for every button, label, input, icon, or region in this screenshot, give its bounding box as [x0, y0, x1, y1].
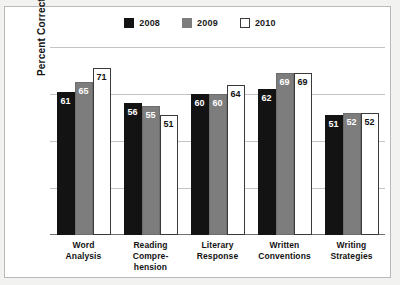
bar-group: 616571: [50, 47, 117, 235]
bar-group: 515252: [318, 47, 385, 235]
legend-label: 2010: [255, 18, 276, 28]
x-axis-category-label: LiteraryResponse: [184, 240, 251, 273]
legend-item: 2008: [124, 18, 160, 28]
bar-group: 626969: [251, 47, 318, 235]
x-axis-labels: WordAnalysisReadingCompre-hensionLiterar…: [50, 240, 385, 273]
x-axis-category-label: WrittenConventions: [251, 240, 318, 273]
x-axis-category-line: Literary: [184, 240, 251, 251]
bar-value-label: 62: [259, 93, 275, 103]
x-axis-category-label: ReadingCompre-hension: [117, 240, 184, 273]
x-axis-category-line: hension: [117, 262, 184, 273]
bar-groups: 616571565551606064626969515252: [50, 47, 385, 235]
chart-figure: 200820092010 Percent Correct 020406080 6…: [0, 0, 400, 285]
y-axis-title: Percent Correct: [36, 0, 47, 97]
x-axis-category-label: WritingStrategies: [318, 240, 385, 273]
bar[interactable]: 65: [75, 82, 93, 235]
bar-set: 606064: [184, 47, 251, 235]
bar-set: 616571: [50, 47, 117, 235]
bar-value-label: 65: [76, 86, 92, 96]
legend-swatch-icon: [124, 18, 134, 28]
bar-set: 565551: [117, 47, 184, 235]
legend-item: 2009: [182, 18, 218, 28]
legend-item: 2010: [240, 18, 276, 28]
bar-value-label: 56: [125, 107, 141, 117]
bar[interactable]: 60: [191, 94, 209, 235]
bar-value-label: 64: [228, 89, 244, 99]
bar-group: 565551: [117, 47, 184, 235]
legend-label: 2008: [139, 18, 160, 28]
chart-legend: 200820092010: [0, 18, 400, 28]
bar[interactable]: 51: [325, 115, 343, 235]
bar-value-label: 51: [326, 119, 342, 129]
bar-value-label: 69: [277, 77, 293, 87]
bar-value-label: 55: [143, 110, 159, 120]
x-axis-category-line: Response: [184, 251, 251, 262]
bar[interactable]: 69: [276, 73, 294, 235]
bar-value-label: 52: [362, 117, 378, 127]
legend-swatch-icon: [182, 18, 192, 28]
bar[interactable]: 61: [57, 92, 75, 235]
bar-group: 606064: [184, 47, 251, 235]
bar[interactable]: 52: [343, 113, 361, 235]
bar-set: 515252: [318, 47, 385, 235]
x-axis-category-line: Writing: [318, 240, 385, 251]
bar[interactable]: 69: [294, 73, 312, 235]
bar[interactable]: 62: [258, 89, 276, 235]
bar-value-label: 52: [344, 117, 360, 127]
bar-set: 626969: [251, 47, 318, 235]
bar-value-label: 61: [58, 96, 74, 106]
x-axis-category-line: Word: [50, 240, 117, 251]
x-axis-category-line: Analysis: [50, 251, 117, 262]
bar[interactable]: 56: [124, 103, 142, 235]
bar-value-label: 60: [192, 98, 208, 108]
bar[interactable]: 71: [93, 68, 111, 235]
x-axis-category-line: Strategies: [318, 251, 385, 262]
bar[interactable]: 64: [227, 85, 245, 235]
bar[interactable]: 55: [142, 106, 160, 235]
x-axis-category-line: Reading: [117, 240, 184, 251]
bar-value-label: 60: [210, 98, 226, 108]
bar-value-label: 71: [94, 72, 110, 82]
bar-value-label: 69: [295, 77, 311, 87]
bar-value-label: 51: [161, 119, 177, 129]
x-axis-category-line: Written: [251, 240, 318, 251]
legend-label: 2009: [197, 18, 218, 28]
legend-swatch-icon: [240, 18, 250, 28]
x-axis-category-line: Compre-: [117, 251, 184, 262]
x-axis-category-line: Conventions: [251, 251, 318, 262]
bar[interactable]: 52: [361, 113, 379, 235]
x-axis-category-label: WordAnalysis: [50, 240, 117, 273]
bar[interactable]: 51: [160, 115, 178, 235]
bar[interactable]: 60: [209, 94, 227, 235]
